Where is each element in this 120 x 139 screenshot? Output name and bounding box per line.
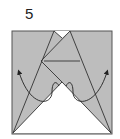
origami-diagram bbox=[0, 0, 120, 139]
